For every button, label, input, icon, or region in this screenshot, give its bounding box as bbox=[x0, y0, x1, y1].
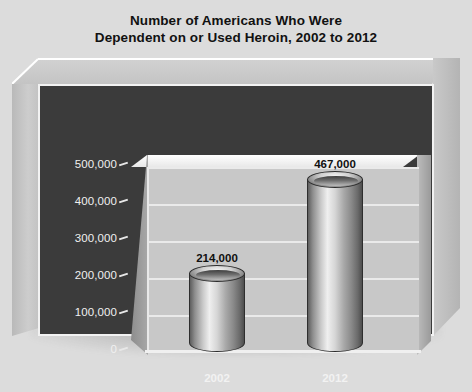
page-title: Number of Americans Who Were Dependent o… bbox=[0, 12, 472, 46]
axis-baseline bbox=[145, 350, 421, 353]
bar-2012[interactable]: 467,000 bbox=[307, 167, 363, 352]
frame-top-face bbox=[12, 58, 460, 84]
y-tick-label: 400,000 bbox=[75, 195, 117, 207]
plot-left-wall bbox=[131, 155, 148, 355]
bar-cylinder-body bbox=[307, 179, 363, 352]
title-line-2: Dependent on or Used Heroin, 2002 to 201… bbox=[0, 29, 472, 46]
y-tick-label: 500,000 bbox=[75, 158, 117, 170]
y-tick-label: 200,000 bbox=[75, 269, 117, 281]
plot-area: 214,000 467,000 bbox=[131, 140, 441, 372]
bar-value-label: 214,000 bbox=[162, 252, 272, 264]
bar-cylinder-top bbox=[189, 265, 245, 282]
plot-back-wall bbox=[131, 140, 419, 157]
bar-value-label: 467,000 bbox=[280, 158, 390, 170]
y-tick-label: 100,000 bbox=[75, 306, 117, 318]
title-line-1: Number of Americans Who Were bbox=[0, 12, 472, 29]
y-tick-mark bbox=[119, 347, 128, 352]
bar-2002[interactable]: 214,000 bbox=[189, 167, 245, 352]
bar-cylinder-top-inner bbox=[314, 176, 358, 186]
chart-3d-frame: 500,000 400,000 300,000 200,000 100,000 … bbox=[12, 58, 460, 348]
y-tick-label: 300,000 bbox=[75, 232, 117, 244]
x-tick-label-2012: 2012 bbox=[280, 372, 390, 384]
bar-cylinder-top-inner bbox=[196, 270, 240, 280]
y-tick-label: 0 bbox=[111, 343, 118, 355]
y-tick-mark bbox=[119, 236, 128, 241]
y-tick-mark bbox=[119, 199, 128, 204]
frame-left-face bbox=[12, 84, 39, 336]
y-axis: 500,000 400,000 300,000 200,000 100,000 … bbox=[44, 140, 130, 372]
x-tick-label-2002: 2002 bbox=[162, 372, 272, 384]
y-tick-mark bbox=[119, 310, 128, 315]
y-tick-mark bbox=[119, 162, 128, 167]
bar-cylinder-body bbox=[189, 273, 245, 352]
bar-cylinder-top bbox=[307, 171, 363, 188]
plot-right-depth bbox=[417, 155, 431, 355]
y-tick-mark bbox=[119, 273, 128, 278]
